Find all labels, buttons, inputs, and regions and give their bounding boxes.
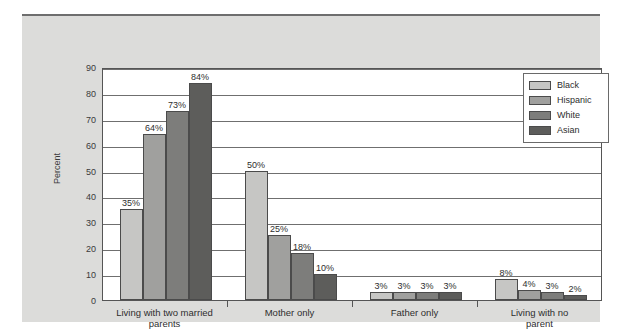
bar-value-label: 18% — [293, 243, 311, 252]
chart-figure: Percent 9080706050403020100 35%64%73%84%… — [0, 0, 620, 332]
legend-item-hispanic[interactable]: Hispanic — [529, 93, 603, 108]
bar — [166, 111, 189, 300]
x-axis-tick — [477, 301, 478, 307]
gridline — [103, 69, 601, 70]
bar — [416, 292, 439, 300]
x-axis-category-label: Living with no parent — [509, 308, 570, 330]
plot-area: 35%64%73%84%50%25%18%10%3%3%3%3%8%4%3%2%… — [102, 68, 602, 301]
legend-swatch-icon — [529, 111, 551, 120]
bar-value-label: 50% — [247, 161, 265, 170]
bar — [314, 274, 337, 300]
chart-legend: BlackHispanicWhiteAsian — [523, 73, 609, 143]
legend-item-black[interactable]: Black — [529, 78, 603, 93]
bar — [291, 253, 314, 300]
bar — [370, 292, 393, 300]
chart-panel: Percent 9080706050403020100 35%64%73%84%… — [22, 14, 600, 322]
legend-label: White — [557, 111, 580, 120]
bar-value-label: 3% — [397, 282, 410, 291]
bar — [120, 209, 143, 300]
legend-label: Hispanic — [557, 96, 592, 105]
y-axis-tick-label: 80 — [66, 89, 96, 98]
bar-value-label: 3% — [420, 282, 433, 291]
y-axis-tick-label: 60 — [66, 141, 96, 150]
bar-value-label: 35% — [122, 199, 140, 208]
x-axis-category-label: Father only — [391, 308, 439, 319]
x-axis-tick — [352, 301, 353, 307]
y-axis-tick-label: 10 — [66, 271, 96, 280]
legend-swatch-icon — [529, 81, 551, 90]
bar — [189, 83, 212, 300]
bar-value-label: 2% — [568, 285, 581, 294]
bar — [518, 290, 541, 300]
bar — [541, 292, 564, 300]
bar — [495, 279, 518, 300]
y-axis-title: Percent — [52, 153, 62, 184]
legend-label: Asian — [557, 126, 580, 135]
bar-value-label: 73% — [168, 101, 186, 110]
y-axis-tick-label: 20 — [66, 245, 96, 254]
bar — [564, 295, 587, 300]
legend-item-asian[interactable]: Asian — [529, 123, 603, 138]
legend-label: Black — [557, 81, 579, 90]
bar-value-label: 3% — [374, 282, 387, 291]
y-axis-tick-label: 30 — [66, 219, 96, 228]
x-axis-category-label: Living with two marriedparents — [116, 308, 213, 330]
legend-swatch-icon — [529, 126, 551, 135]
bar-value-label: 3% — [545, 282, 558, 291]
y-axis-tick-label: 40 — [66, 193, 96, 202]
y-axis-tick-label: 70 — [66, 115, 96, 124]
bar-value-label: 25% — [270, 225, 288, 234]
y-axis-tick-label: 0 — [66, 297, 96, 306]
x-axis-tick — [227, 301, 228, 307]
bar-value-label: 64% — [145, 124, 163, 133]
bar-value-label: 84% — [191, 73, 209, 82]
bar — [143, 134, 166, 300]
y-axis-tick-label: 50 — [66, 167, 96, 176]
bar-value-label: 10% — [316, 264, 334, 273]
x-axis-category-label: Mother only — [265, 308, 315, 319]
legend-swatch-icon — [529, 96, 551, 105]
y-axis-tick-label: 90 — [66, 64, 96, 73]
bar — [393, 292, 416, 300]
bar-value-label: 8% — [499, 269, 512, 278]
bar — [245, 171, 268, 300]
bar — [268, 235, 291, 300]
bar-value-label: 3% — [443, 282, 456, 291]
legend-item-white[interactable]: White — [529, 108, 603, 123]
bar — [439, 292, 462, 300]
bar-value-label: 4% — [522, 280, 535, 289]
